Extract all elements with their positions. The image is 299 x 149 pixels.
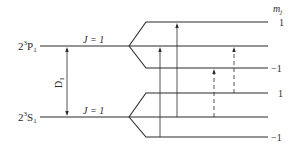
transition-arrows xyxy=(158,23,235,137)
lower-j-label: J = 1 xyxy=(83,105,104,116)
transition-arrowhead xyxy=(232,47,235,52)
transition-arrow-dashed-2 xyxy=(232,47,235,93)
lower-fan-bottom xyxy=(129,117,268,137)
lower-state-label: 23S1 xyxy=(18,110,37,125)
lower-mj-plus1-label: 1 xyxy=(278,88,283,99)
mj-header-sub: j xyxy=(279,8,282,16)
lower-fan-top xyxy=(129,93,268,117)
transition-arrowhead xyxy=(175,23,178,28)
upper-state-label: 23P1 xyxy=(18,39,37,54)
transition-arrowhead xyxy=(158,47,161,52)
d1-label-sub: 1 xyxy=(58,77,66,81)
upper-fan-top xyxy=(129,22,268,46)
d1-arrowhead-down xyxy=(65,111,68,116)
upper-j-label: J = 1 xyxy=(83,34,104,45)
mj-header-main: m xyxy=(273,3,280,14)
zeeman-level-diagram: 23P1 23S1 J = 1 J = 1 D1 mj 1 −1 1 −1 xyxy=(0,0,299,149)
lower-state-label-sub: 1 xyxy=(33,117,37,125)
upper-mj-minus1-label: −1 xyxy=(271,63,282,74)
transition-arrowhead xyxy=(212,69,215,74)
upper-mj-plus1-label: 1 xyxy=(279,17,284,28)
d1-label-main: D xyxy=(53,81,64,88)
transition-arrow-solid-1 xyxy=(158,47,161,137)
lower-mj-minus1-label: −1 xyxy=(271,132,282,143)
upper-fan-bottom xyxy=(129,46,268,68)
upper-state-label-sub: 1 xyxy=(33,46,37,54)
transition-arrow-solid-2 xyxy=(175,23,178,117)
d1-label: D1 xyxy=(53,77,66,88)
d1-arrowhead-up xyxy=(65,47,68,52)
mj-header: mj xyxy=(273,3,282,16)
